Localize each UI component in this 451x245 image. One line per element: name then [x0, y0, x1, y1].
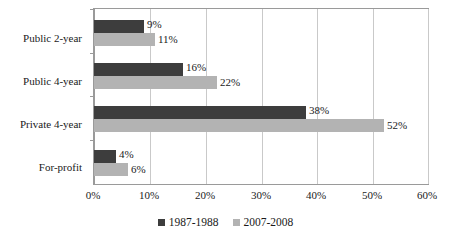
gridline-40: [317, 9, 318, 184]
bar-chart: Public 2-year Public 4-year Private 4-ye…: [0, 0, 451, 245]
category-tick-1: [90, 53, 94, 54]
bar-for-profit-2007-2008: [94, 163, 128, 176]
category-label-public-2-year: Public 2-year: [0, 32, 82, 44]
bar-value-private-4-year-2007-2008: 52%: [387, 119, 407, 132]
bar-private-4-year-1987-1988: [94, 106, 306, 119]
bar-value-for-profit-2007-2008: 6%: [131, 163, 146, 176]
bar-value-public-4-year-2007-2008: 22%: [220, 76, 240, 89]
legend-swatch-icon-1987-1988: [158, 219, 165, 226]
bar-private-4-year-2007-2008: [94, 119, 384, 132]
bar-value-private-4-year-1987-1988: 38%: [309, 104, 329, 117]
legend-label-1987-1988: 1987-1988: [169, 216, 219, 229]
x-tick-label-50: 50%: [350, 188, 394, 202]
category-axis: Public 2-year Public 4-year Private 4-ye…: [0, 8, 86, 183]
bar-value-public-2-year-2007-2008: 11%: [158, 33, 178, 46]
gridline-60: [428, 9, 429, 184]
legend-entry-2007-2008: 2007-2008: [233, 216, 294, 229]
chart-legend: 1987-1988 2007-2008: [0, 213, 451, 231]
category-tick-2: [90, 96, 94, 97]
bar-for-profit-1987-1988: [94, 150, 116, 163]
category-tick-3: [90, 140, 94, 141]
category-label-public-4-year: Public 4-year: [0, 75, 82, 87]
gridline-50: [373, 9, 374, 184]
bar-public-2-year-1987-1988: [94, 20, 144, 33]
bar-public-4-year-2007-2008: [94, 76, 217, 89]
x-tick-label-40: 40%: [294, 188, 338, 202]
legend-swatch-icon-2007-2008: [233, 219, 240, 226]
x-tick-label-0: 0%: [71, 188, 115, 202]
bar-value-public-2-year-1987-1988: 9%: [147, 18, 162, 31]
bar-public-2-year-2007-2008: [94, 33, 155, 46]
x-tick-label-20: 20%: [183, 188, 227, 202]
bar-value-public-4-year-1987-1988: 16%: [186, 61, 206, 74]
legend-entry-1987-1988: 1987-1988: [158, 216, 219, 229]
bar-public-4-year-1987-1988: [94, 63, 183, 76]
legend-label-2007-2008: 2007-2008: [244, 216, 294, 229]
category-label-private-4-year: Private 4-year: [0, 118, 82, 130]
x-tick-label-30: 30%: [239, 188, 283, 202]
plot-area: 9% 11% 16% 22% 38% 52% 4% 6%: [93, 8, 429, 185]
category-label-for-profit: For-profit: [0, 161, 82, 173]
value-axis: 0% 10% 20% 30% 40% 50% 60%: [0, 188, 451, 204]
x-tick-label-60: 60%: [405, 188, 449, 202]
bar-value-for-profit-1987-1988: 4%: [119, 148, 134, 161]
category-tick-0: [90, 9, 94, 10]
gridline-20: [206, 9, 207, 184]
x-tick-label-10: 10%: [127, 188, 171, 202]
gridline-30: [262, 9, 263, 184]
